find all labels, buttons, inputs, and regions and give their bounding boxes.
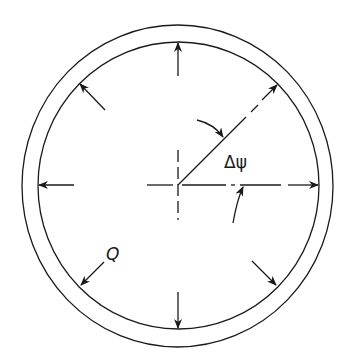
pipe-cross-section-diagram: [0, 0, 349, 358]
angle-arrow-upper: [197, 120, 223, 137]
pressure-arrow-upper-left: [80, 84, 105, 110]
angle-label-delta-psi: Δψ: [224, 154, 247, 171]
pressure-arrow-lower-left: [81, 262, 104, 285]
pressure-arrow-lower-right: [252, 261, 276, 285]
angle-arrow-lower: [233, 187, 243, 223]
load-label-q: Q: [106, 246, 119, 263]
